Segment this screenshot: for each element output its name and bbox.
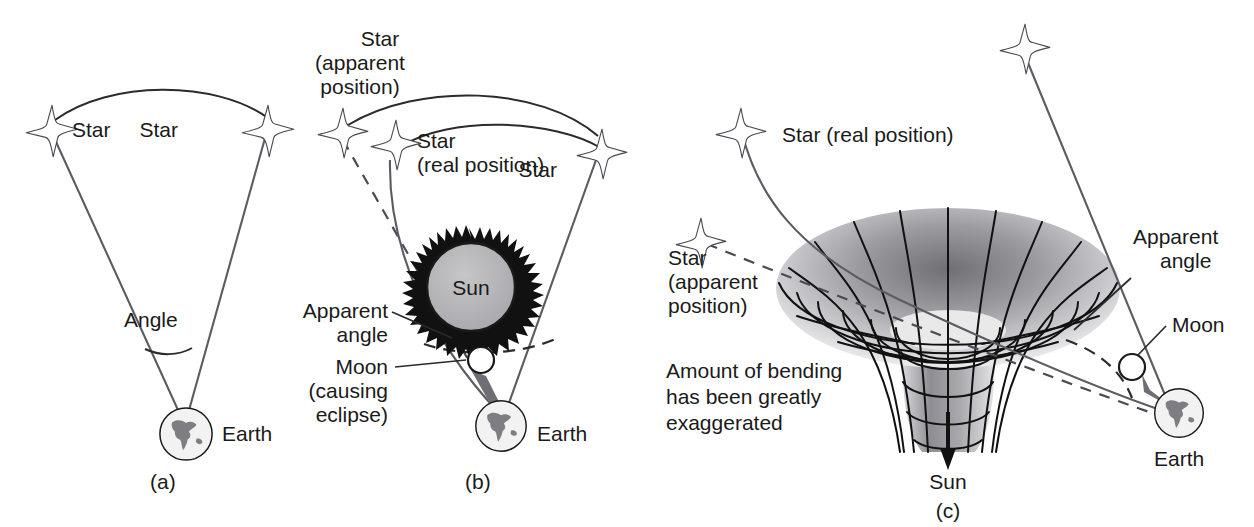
physics-diagram-starlight-bending: Star Star Angle Earth (a) Sun — [0, 0, 1254, 527]
panel-c-note-line1: Amount of bending — [666, 359, 842, 382]
panel-c-note-line3: exaggerated — [666, 411, 783, 434]
moon-icon — [1119, 354, 1145, 380]
panel-a-angle-label: Angle — [124, 308, 178, 331]
panel-b-apparent-angle-line2: angle — [337, 323, 388, 346]
panel-c-star-apparent-line2: (apparent — [668, 270, 758, 293]
panel-c-star-real-label: Star (real position) — [782, 123, 954, 146]
panel-c-star-apparent-line3: position) — [668, 294, 747, 317]
panel-c-caption: (c) — [936, 499, 961, 522]
panel-a-earth-label: Earth — [222, 422, 272, 445]
panel-b-star-real-line1: Star — [417, 129, 456, 152]
panel-b-star-right-label: Star — [518, 158, 557, 181]
panel-b-star-apparent-line2: (apparent — [315, 51, 405, 74]
panel-b-sun-label: Sun — [452, 276, 489, 299]
panel-b-star-apparent-line3: position) — [320, 75, 399, 98]
earth-icon — [1155, 389, 1204, 438]
panel-c-note-line2: has been greatly — [666, 385, 822, 408]
panel-c-moon-label: Moon — [1172, 313, 1225, 336]
panel-b-star-apparent-line1: Star — [361, 27, 400, 50]
panel-c-star-apparent-line1: Star — [668, 246, 707, 269]
panel-a-star-right-label: Star — [139, 118, 178, 141]
panel-c-earth-label: Earth — [1154, 447, 1204, 470]
panel-c-sun-arrow-label: Sun — [929, 470, 966, 493]
panel-c-apparent-angle-line2: angle — [1160, 249, 1211, 272]
panel-b-earth-label: Earth — [537, 422, 587, 445]
panel-b-moon-line1: Moon — [335, 355, 388, 378]
panel-a-caption: (a) — [150, 470, 176, 493]
earth-icon — [476, 401, 526, 451]
panel-c-apparent-angle-line1: Apparent — [1133, 225, 1218, 248]
earth-icon — [160, 408, 212, 460]
panel-b-apparent-angle-line1: Apparent — [303, 299, 388, 322]
panel-a-star-left-label: Star — [72, 118, 111, 141]
panel-b-caption: (b) — [465, 470, 491, 493]
moon-icon — [468, 347, 494, 373]
panel-b-moon-line2: (causing — [309, 379, 388, 402]
panel-b-moon-line3: eclipse) — [316, 403, 388, 426]
